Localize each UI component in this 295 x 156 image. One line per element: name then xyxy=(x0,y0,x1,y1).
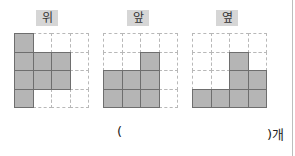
filled-cell xyxy=(122,89,142,109)
empty-cell xyxy=(103,33,123,53)
empty-cell xyxy=(192,33,212,53)
view-top-grid xyxy=(14,33,88,107)
filled-cell xyxy=(192,89,212,109)
answer-blank[interactable] xyxy=(126,124,266,140)
empty-cell xyxy=(159,33,179,53)
empty-cell xyxy=(33,33,53,53)
filled-cell xyxy=(140,52,160,72)
empty-cell xyxy=(211,52,231,72)
filled-cell xyxy=(51,70,71,90)
empty-cell xyxy=(33,89,53,109)
empty-cell xyxy=(122,33,142,53)
empty-cell xyxy=(159,52,179,72)
empty-cell xyxy=(229,33,249,53)
empty-cell xyxy=(211,33,231,53)
empty-cell xyxy=(159,89,179,109)
view-side-label: 옆 xyxy=(216,10,238,26)
filled-cell xyxy=(33,70,53,90)
filled-cell xyxy=(14,52,34,72)
filled-cell xyxy=(33,52,53,72)
empty-cell xyxy=(122,52,142,72)
filled-cell xyxy=(103,70,123,90)
empty-cell xyxy=(70,89,90,109)
view-front: 앞 xyxy=(103,0,179,110)
filled-cell xyxy=(14,33,34,53)
filled-cell xyxy=(140,70,160,90)
filled-cell xyxy=(122,70,142,90)
filled-cell xyxy=(140,89,160,109)
right-border-divider xyxy=(292,0,293,156)
filled-cell xyxy=(14,70,34,90)
view-front-label: 앞 xyxy=(127,10,149,26)
empty-cell xyxy=(70,33,90,53)
filled-cell xyxy=(229,70,249,90)
answer-open-paren: ( xyxy=(117,124,122,139)
empty-cell xyxy=(248,52,268,72)
filled-cell xyxy=(103,89,123,109)
view-top-label: 위 xyxy=(36,10,58,26)
filled-cell xyxy=(248,89,268,109)
empty-cell xyxy=(70,52,90,72)
view-top: 위 xyxy=(14,0,90,110)
empty-cell xyxy=(192,70,212,90)
filled-cell xyxy=(229,52,249,72)
answer-unit: )개 xyxy=(267,124,284,143)
empty-cell xyxy=(103,52,123,72)
filled-cell xyxy=(248,70,268,90)
empty-cell xyxy=(159,70,179,90)
empty-cell xyxy=(51,33,71,53)
view-front-grid xyxy=(103,33,177,107)
empty-cell xyxy=(51,89,71,109)
empty-cell xyxy=(140,33,160,53)
empty-cell xyxy=(70,70,90,90)
filled-cell xyxy=(211,89,231,109)
view-side: 옆 xyxy=(192,0,268,110)
filled-cell xyxy=(14,89,34,109)
empty-cell xyxy=(211,70,231,90)
empty-cell xyxy=(192,52,212,72)
view-side-grid xyxy=(192,33,266,107)
empty-cell xyxy=(248,33,268,53)
filled-cell xyxy=(51,52,71,72)
filled-cell xyxy=(229,89,249,109)
